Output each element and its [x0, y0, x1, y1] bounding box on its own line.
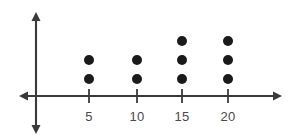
data-dot — [223, 55, 233, 65]
data-dot — [177, 55, 187, 65]
data-dot — [84, 74, 94, 84]
y-axis-group — [32, 12, 41, 134]
x-tick-label-3: 20 — [221, 110, 236, 123]
data-dot — [84, 55, 94, 65]
data-dot — [223, 74, 233, 84]
data-dot — [132, 55, 142, 65]
y-axis-bottom-arrow-icon — [32, 125, 41, 134]
data-dot — [132, 74, 142, 84]
x-axis-left-arrow-icon — [19, 92, 28, 101]
data-dot — [177, 36, 187, 46]
x-tick-label-1: 10 — [130, 110, 145, 123]
data-dot — [223, 36, 233, 46]
x-axis-right-arrow-icon — [273, 92, 282, 101]
y-axis-top-arrow-icon — [32, 12, 41, 21]
x-tick-label-0: 5 — [85, 110, 92, 123]
x-axis-group — [19, 92, 282, 101]
x-tick-label-2: 15 — [175, 110, 190, 123]
data-dot-layer — [84, 36, 233, 84]
data-dot — [177, 74, 187, 84]
dot-plot-canvas — [0, 0, 297, 140]
dot-plot-figure: 5 10 15 20 — [0, 0, 297, 140]
